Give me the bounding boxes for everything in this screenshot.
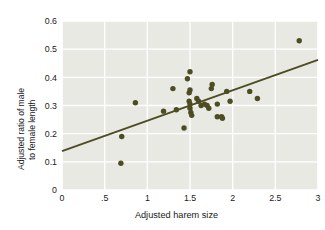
data-point (119, 134, 124, 139)
data-point (187, 69, 192, 74)
x-axis-label: Adjusted harem size (0, 210, 325, 220)
data-point (170, 86, 175, 91)
data-point (181, 125, 186, 130)
data-point (297, 38, 302, 43)
data-point (247, 89, 252, 94)
x-axis-label-text: Adjusted harem size (135, 210, 218, 220)
x-tick-label: 0 (60, 193, 65, 203)
y-tick-label: 0.3 (45, 101, 57, 111)
y-tick-label: 0 (52, 185, 57, 195)
x-tick-label: 2.5 (269, 193, 281, 203)
y-axis-label-line1: Adjusted ratio of male (16, 88, 26, 170)
data-point (227, 99, 232, 104)
data-point (161, 108, 166, 113)
x-tick-label: 1.5 (184, 193, 196, 203)
x-tick-label: .5 (101, 193, 108, 203)
y-tick-label: 0.6 (45, 16, 57, 26)
data-point (133, 100, 138, 105)
x-tick-label: 1 (145, 193, 150, 203)
x-tick-label: 2 (230, 193, 235, 203)
data-point (255, 96, 260, 101)
y-tick-label: 0.5 (45, 44, 57, 54)
data-point (185, 76, 190, 81)
x-tick-label: 3 (316, 193, 321, 203)
data-point (187, 87, 192, 92)
data-point (189, 113, 194, 118)
data-point (206, 106, 211, 111)
scatter-plot-figure: 0.511.522.53 00.10.20.30.40.50.6 (0, 0, 325, 230)
y-tick-label: 0.1 (45, 157, 57, 167)
y-axis-label-line2: to female length (27, 100, 37, 160)
data-point (118, 161, 123, 166)
y-tick-label: 0.2 (45, 129, 57, 139)
data-point (209, 82, 214, 87)
data-point (215, 101, 220, 106)
y-tick-label: 0.4 (45, 73, 57, 83)
data-point (220, 115, 225, 120)
